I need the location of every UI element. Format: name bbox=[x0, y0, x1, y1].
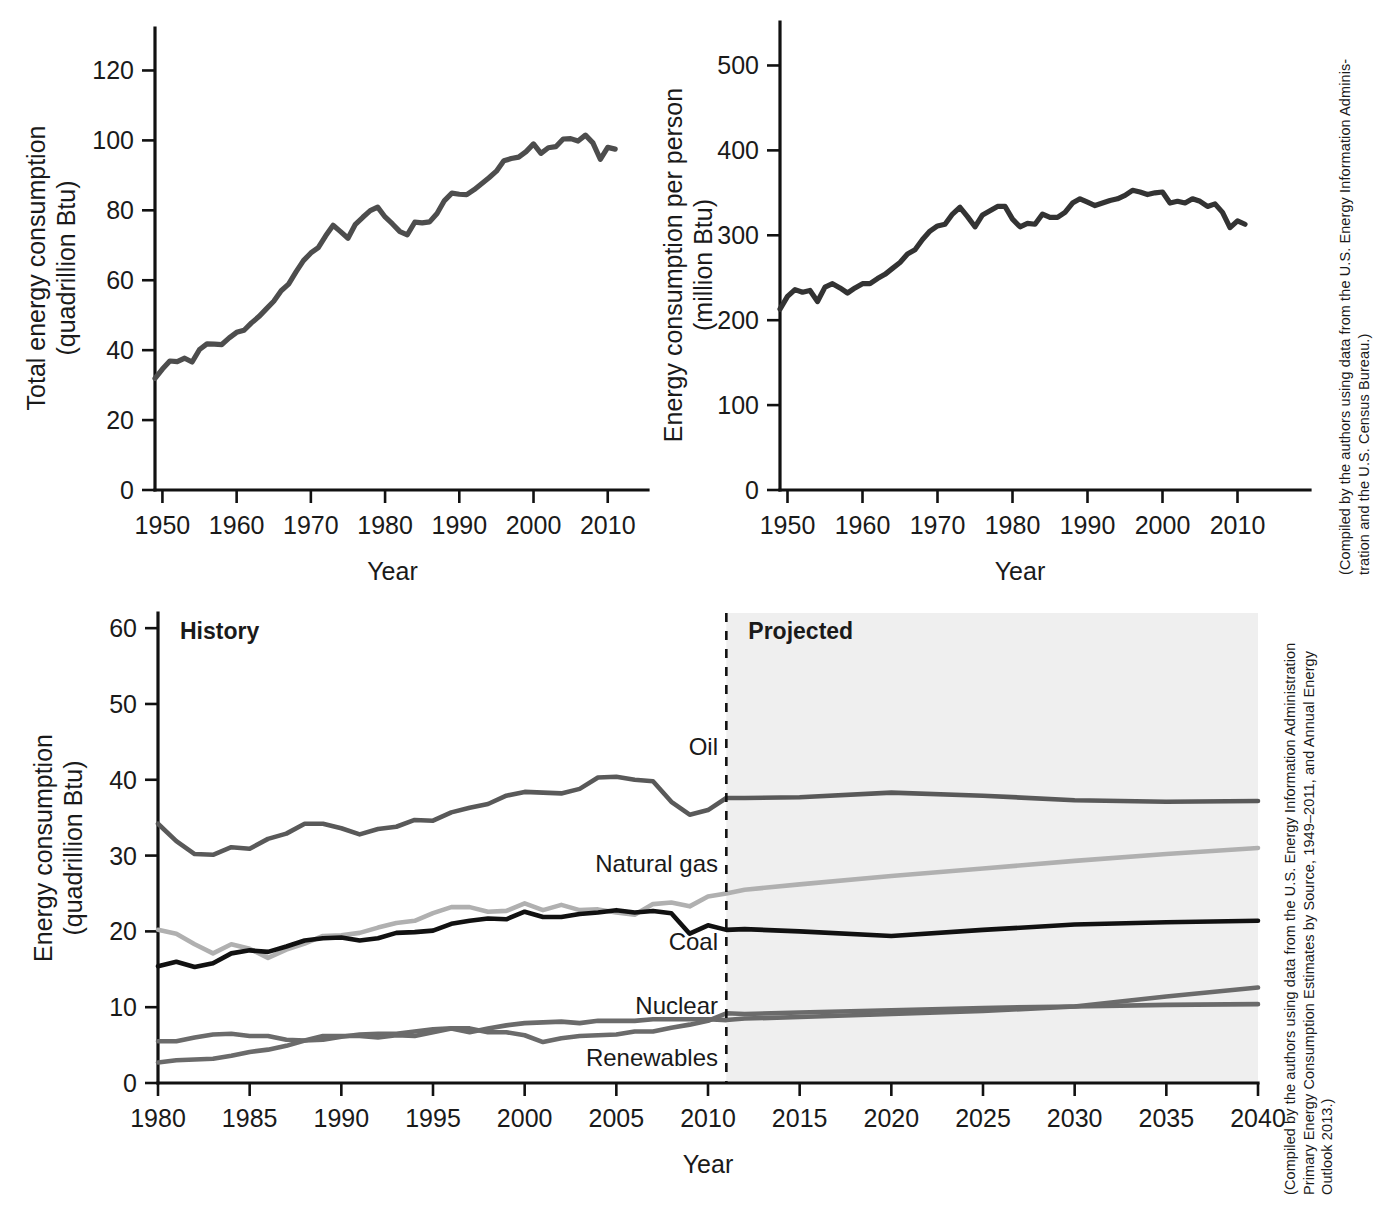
y-tick-label: 20 bbox=[106, 406, 134, 434]
y-tick-label: 20 bbox=[109, 917, 137, 945]
y-axis-title-line2: (quadrillion Btu) bbox=[59, 760, 87, 935]
x-tick-label: 2035 bbox=[1139, 1104, 1195, 1132]
x-tick-label: 2010 bbox=[680, 1104, 736, 1132]
x-axis-title: Year bbox=[683, 1150, 734, 1178]
x-tick-label: 2010 bbox=[1210, 511, 1266, 539]
x-tick-label: 1950 bbox=[760, 511, 816, 539]
y-tick-label: 500 bbox=[717, 51, 759, 79]
series-line-energy-consumption-per-person bbox=[780, 190, 1245, 309]
y-axis-title-line1: Energy consumption per person bbox=[659, 88, 687, 442]
x-tick-label: 1980 bbox=[985, 511, 1041, 539]
y-tick-label: 10 bbox=[109, 993, 137, 1021]
y-axis-title-line1: Energy consumption bbox=[29, 734, 57, 962]
series-line-total-energy-consumption bbox=[155, 135, 615, 378]
y-tick-label: 400 bbox=[717, 136, 759, 164]
x-tick-label: 1990 bbox=[431, 511, 487, 539]
y-tick-label: 100 bbox=[92, 126, 134, 154]
history-label: History bbox=[180, 618, 259, 644]
y-axis-title-line2: (quadrillion Btu) bbox=[52, 180, 80, 355]
y-tick-label: 40 bbox=[109, 766, 137, 794]
chart-total-energy-consumption: 0204060801001201950196019701980199020002… bbox=[0, 0, 680, 570]
projected-label: Projected bbox=[748, 618, 853, 644]
series-label-oil: Oil bbox=[689, 733, 718, 760]
chart-energy-consumption-by-source: 0102030405060198019851990199520002005201… bbox=[0, 560, 1290, 1208]
caption-bottom-right: (Compiled by the authors using data from… bbox=[1281, 785, 1337, 1195]
x-tick-label: 2015 bbox=[772, 1104, 828, 1132]
y-tick-label: 0 bbox=[123, 1069, 137, 1097]
series-label-renewables: Renewables bbox=[586, 1044, 718, 1071]
y-tick-label: 0 bbox=[120, 476, 134, 504]
x-tick-label: 2000 bbox=[1135, 511, 1191, 539]
x-tick-label: 1995 bbox=[405, 1104, 461, 1132]
y-axis-title-line1: Total energy consumption bbox=[22, 126, 50, 411]
x-tick-label: 1960 bbox=[209, 511, 265, 539]
y-axis-title: Energy consumption(quadrillion Btu) bbox=[29, 734, 87, 962]
x-tick-label: 2000 bbox=[506, 511, 562, 539]
x-tick-label: 1980 bbox=[130, 1104, 186, 1132]
x-tick-label: 2030 bbox=[1047, 1104, 1103, 1132]
y-tick-label: 40 bbox=[106, 336, 134, 364]
x-tick-label: 2005 bbox=[589, 1104, 645, 1132]
series-label-natural-gas: Natural gas bbox=[595, 850, 718, 877]
y-tick-label: 200 bbox=[717, 306, 759, 334]
x-tick-label: 1950 bbox=[135, 511, 191, 539]
chart-energy-consumption-per-person: 0100200300400500195019601970198019902000… bbox=[660, 0, 1340, 570]
series-label-coal: Coal bbox=[669, 928, 718, 955]
y-tick-label: 50 bbox=[109, 690, 137, 718]
y-tick-label: 60 bbox=[109, 614, 137, 642]
x-tick-label: 1985 bbox=[222, 1104, 278, 1132]
x-tick-label: 2020 bbox=[864, 1104, 920, 1132]
x-tick-label: 2040 bbox=[1230, 1104, 1286, 1132]
y-tick-label: 100 bbox=[717, 391, 759, 419]
x-tick-label: 1960 bbox=[835, 511, 891, 539]
y-tick-label: 30 bbox=[109, 842, 137, 870]
y-axis-title: Total energy consumption(quadrillion Btu… bbox=[22, 126, 80, 411]
x-tick-label: 1970 bbox=[283, 511, 339, 539]
series-label-nuclear: Nuclear bbox=[635, 992, 718, 1019]
x-tick-label: 2010 bbox=[580, 511, 636, 539]
y-tick-label: 60 bbox=[106, 266, 134, 294]
x-tick-label: 1990 bbox=[1060, 511, 1116, 539]
y-axis-title: Energy consumption per person(million Bt… bbox=[659, 88, 717, 442]
x-tick-label: 1980 bbox=[357, 511, 413, 539]
caption-top-right: (Compiled by the authors using data from… bbox=[1336, 275, 1373, 575]
x-tick-label: 1970 bbox=[910, 511, 966, 539]
x-tick-label: 1990 bbox=[314, 1104, 370, 1132]
y-tick-label: 0 bbox=[745, 476, 759, 504]
y-tick-label: 80 bbox=[106, 196, 134, 224]
x-tick-label: 2000 bbox=[497, 1104, 553, 1132]
y-axis-title-line2: (million Btu) bbox=[689, 199, 717, 331]
y-tick-label: 300 bbox=[717, 221, 759, 249]
y-tick-label: 120 bbox=[92, 56, 134, 84]
x-tick-label: 2025 bbox=[955, 1104, 1011, 1132]
